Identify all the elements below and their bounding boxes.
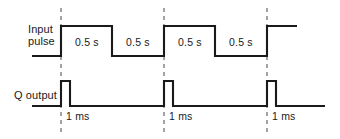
duration-label-3: 0.5 s [178, 37, 202, 48]
duration-label-2: 0.5 s [126, 37, 150, 48]
pulse-width-label-1: 1 ms [66, 111, 90, 122]
q-output-waveform [32, 81, 325, 106]
input-pulse-row-label: Input pulse [28, 24, 55, 47]
input-pulse-label-line-1: Input [28, 24, 55, 36]
input-pulse-waveform [32, 26, 297, 56]
pulse-width-label-3: 1 ms [272, 111, 296, 122]
timing-diagram: Input pulse Q output 0.5 s 0.5 s 0.5 s 0… [0, 0, 340, 139]
input-pulse-label-line-2: pulse [28, 36, 55, 48]
duration-label-1: 0.5 s [75, 37, 99, 48]
q-output-row-label: Q output [14, 90, 57, 102]
pulse-width-label-2: 1 ms [169, 111, 193, 122]
duration-label-4: 0.5 s [229, 37, 253, 48]
